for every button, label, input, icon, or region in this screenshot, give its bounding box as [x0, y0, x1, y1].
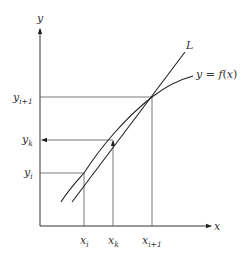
x-tick-label-i: xi	[80, 234, 89, 249]
x-axis-label: x	[214, 220, 221, 233]
x-tick-label-k: xk	[108, 234, 119, 249]
x-tick-label-i-plus-1: xi+1	[142, 234, 162, 249]
secant-line-L	[72, 52, 185, 202]
y-axis-label: y	[36, 12, 44, 25]
curve-label: y = f(x)	[195, 68, 237, 81]
y-tick-label-i: yi	[23, 166, 33, 181]
line-L-label: L	[185, 39, 193, 52]
y-tick-label-k: yk	[21, 133, 33, 148]
y-tick-label-i-plus-1: yi+1	[12, 91, 33, 106]
function-curve	[61, 76, 193, 202]
secant-diagram: x y L y = f(x) yi+1 yk yi xi xk xi+1	[0, 0, 244, 260]
